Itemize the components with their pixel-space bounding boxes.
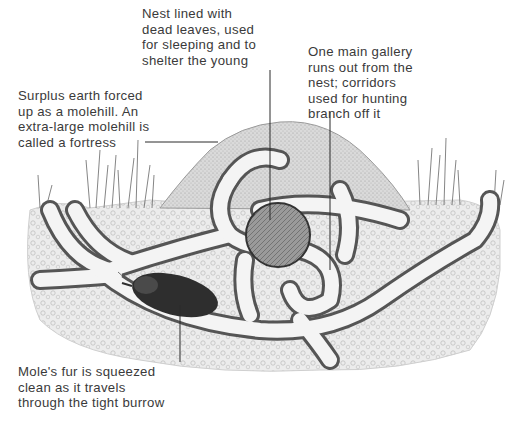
burrow-illustration: [0, 0, 516, 425]
label-main-gallery: One main gallery runs out from the nest;…: [308, 44, 413, 122]
label-surplus-earth: Surplus earth forced up as a molehill. A…: [18, 88, 150, 150]
label-mole-fur: Mole's fur is squeezed clean as it trave…: [18, 364, 165, 411]
nest: [246, 203, 310, 267]
grass-left: [38, 140, 154, 208]
label-nest: Nest lined with dead leaves, used for sl…: [142, 6, 256, 68]
